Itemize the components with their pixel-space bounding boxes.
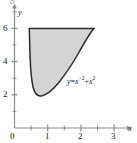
plot-svg — [0, 0, 137, 143]
y-tick-label-2: 2 — [3, 90, 8, 99]
figure-container: 8 y x 0 1 2 3 2 4 6 y=x−2+x2 — [0, 0, 137, 143]
curve-equation-label: y=x−2+x2 — [67, 78, 95, 86]
x-tick-label-3: 3 — [111, 132, 116, 141]
curve-label-exponent-2: 2 — [93, 75, 96, 81]
y-tick-label-6: 6 — [3, 24, 8, 33]
cropped-top-tick-label: 8 — [10, 0, 15, 6]
origin-tick-label: 0 — [10, 132, 15, 141]
x-tick-label-2: 2 — [78, 132, 83, 141]
y-tick-label-4: 4 — [3, 57, 8, 66]
x-axis-label: x — [128, 124, 132, 133]
y-axis-label: y — [18, 8, 22, 17]
x-tick-label-1: 1 — [45, 132, 50, 141]
